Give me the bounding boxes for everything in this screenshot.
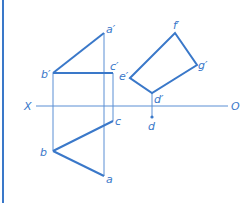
label-e-prime: e′ [119,70,129,83]
label-f-prime: f′ [173,19,180,32]
label-b: b [40,146,47,159]
label-c: c [115,115,121,128]
label-d-prime: d′ [154,93,164,106]
edge-a-prime-b-prime [53,33,104,73]
label-a-prime: a′ [106,23,116,36]
edge-b-a [53,151,104,176]
point-d [150,115,153,118]
label-d: d [148,120,156,133]
axis-label-x: X [23,100,32,113]
projection-diagram: X O a′ b′ c′ e′ f′ g′ d′ d c b a [0,0,252,203]
label-b-prime: b′ [41,68,51,81]
rectangle-efgd-prime [130,33,197,93]
label-g-prime: g′ [198,59,208,72]
label-a: a [106,173,113,186]
label-c-prime: c′ [110,60,119,73]
axis-label-o: O [231,100,240,113]
